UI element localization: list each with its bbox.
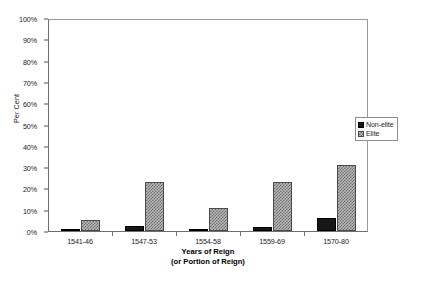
bar-group bbox=[253, 20, 293, 231]
bar-nonelite bbox=[317, 218, 336, 231]
legend-swatch-elite-icon bbox=[358, 131, 364, 137]
chart-legend: Non-eliteElite bbox=[355, 117, 398, 141]
bar-nonelite bbox=[61, 229, 80, 231]
x-axis-tick-mark bbox=[240, 232, 241, 236]
legend-item[interactable]: Non-elite bbox=[358, 120, 394, 129]
y-axis-tick-label: 30% bbox=[23, 164, 37, 173]
y-axis-tick-label: 100% bbox=[19, 15, 37, 24]
x-axis-title-line2: (or Portion of Reign) bbox=[48, 257, 368, 267]
bar-group bbox=[125, 20, 165, 231]
y-axis-tick-label: 20% bbox=[23, 185, 37, 194]
y-axis-tick-label: 80% bbox=[23, 57, 37, 66]
bar-group bbox=[61, 20, 101, 231]
x-axis-title: Years of Reign (or Portion of Reign) bbox=[48, 247, 368, 266]
legend-item-label: Non-elite bbox=[366, 121, 394, 128]
legend-item-label: Elite bbox=[366, 130, 379, 137]
x-axis-tick-label: 1541-46 bbox=[67, 237, 93, 246]
bar-elite bbox=[145, 182, 164, 231]
bar-elite bbox=[273, 182, 292, 231]
bar-nonelite bbox=[125, 226, 144, 231]
x-axis-title-line1: Years of Reign bbox=[48, 247, 368, 257]
bar-nonelite bbox=[253, 227, 272, 231]
x-axis-tick-mark bbox=[176, 232, 177, 236]
bar-chart: Per Cent 100%90%80%70%60%50%40%30%20%10%… bbox=[0, 0, 427, 283]
y-axis-tick-label: 50% bbox=[23, 121, 37, 130]
plot-area bbox=[48, 19, 368, 232]
bar-nonelite bbox=[189, 229, 208, 231]
legend-item[interactable]: Elite bbox=[358, 129, 394, 138]
x-axis-tick-label: 1559-69 bbox=[259, 237, 285, 246]
bar-elite bbox=[209, 208, 228, 231]
bar-elite bbox=[337, 165, 356, 231]
y-axis-tick-label: 70% bbox=[23, 78, 37, 87]
x-axis-tick-label: 1547-53 bbox=[131, 237, 157, 246]
x-axis-tick-label: 1570-80 bbox=[323, 237, 349, 246]
x-axis-tick-mark bbox=[304, 232, 305, 236]
bar-group bbox=[189, 20, 229, 231]
bars-layer bbox=[49, 20, 367, 231]
y-axis-tick-label: 10% bbox=[23, 206, 37, 215]
y-axis-tick-label: 40% bbox=[23, 142, 37, 151]
bar-elite bbox=[81, 220, 100, 231]
y-axis-tick-label: 60% bbox=[23, 100, 37, 109]
x-axis-tick-mark bbox=[112, 232, 113, 236]
x-axis-tick-label: 1554-58 bbox=[195, 237, 221, 246]
legend-swatch-nonelite-icon bbox=[358, 122, 364, 128]
y-axis-tick-labels: 100%90%80%70%60%50%40%30%20%10%0% bbox=[0, 19, 44, 232]
y-axis-tick-label: 0% bbox=[27, 228, 37, 237]
bar-group bbox=[317, 20, 357, 231]
y-axis-tick-label: 90% bbox=[23, 36, 37, 45]
